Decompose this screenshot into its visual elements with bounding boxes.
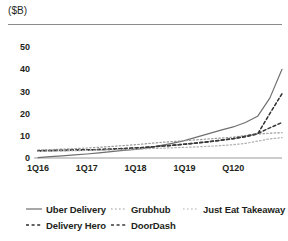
legend-item-doordash[interactable]: DoorDash — [111, 218, 176, 232]
x-axis-tick-label: 1Q17 — [76, 163, 98, 173]
y-axis-unit-label: ($B) — [8, 5, 27, 16]
legend-label-uber-delivery: Uber Delivery — [46, 204, 106, 215]
header-divider — [8, 24, 282, 25]
legend-row-2: Delivery Hero DoorDash — [0, 218, 288, 234]
y-axis-tick-label: 40 — [20, 64, 30, 74]
x-axis-tick-label: 1Q18 — [125, 163, 147, 173]
chart-figure: ($B) 010203040501Q161Q171Q181Q19Q120 Ube… — [0, 0, 288, 241]
plot-area: 010203040501Q161Q171Q181Q19Q120 — [0, 28, 288, 180]
legend-item-grubhub[interactable]: Grubhub — [111, 202, 170, 216]
series-line-doordash — [38, 123, 282, 151]
legend-swatch-uber-delivery-icon — [26, 204, 42, 214]
legend-label-just-eat-takeaway: Just Eat Takeaway — [203, 204, 285, 215]
legend-item-uber-delivery[interactable]: Uber Delivery — [26, 202, 106, 216]
x-axis-tick-label: 1Q19 — [173, 163, 195, 173]
x-axis-tick-label: 1Q16 — [27, 163, 49, 173]
legend-label-doordash: DoorDash — [131, 220, 176, 231]
legend-swatch-just-eat-takeaway-icon — [183, 204, 199, 214]
chart-legend: Uber Delivery Grubhub Just Eat Takeaway — [0, 200, 288, 241]
legend-swatch-delivery-hero-icon — [26, 220, 42, 230]
series-line-grubhub — [38, 133, 282, 150]
legend-swatch-doordash-icon — [111, 220, 127, 230]
series-line-uber-delivery — [38, 69, 282, 157]
y-axis-tick-label: 30 — [20, 87, 30, 97]
y-axis-tick-label: 10 — [20, 131, 30, 141]
legend-label-delivery-hero: Delivery Hero — [46, 220, 106, 231]
legend-row-1: Uber Delivery Grubhub Just Eat Takeaway — [0, 202, 288, 218]
x-axis-tick-label: Q120 — [222, 163, 244, 173]
legend-label-grubhub: Grubhub — [131, 204, 170, 215]
legend-swatch-grubhub-icon — [111, 204, 127, 214]
line-chart-svg: 010203040501Q161Q171Q181Q19Q120 — [0, 28, 288, 180]
legend-item-just-eat-takeaway[interactable]: Just Eat Takeaway — [183, 202, 285, 216]
series-line-just-eat-takeaway — [38, 138, 282, 152]
y-axis-tick-label: 50 — [20, 42, 30, 52]
y-axis-tick-label: 20 — [20, 109, 30, 119]
y-axis-tick-label: 0 — [25, 153, 30, 163]
legend-item-delivery-hero[interactable]: Delivery Hero — [26, 218, 106, 232]
